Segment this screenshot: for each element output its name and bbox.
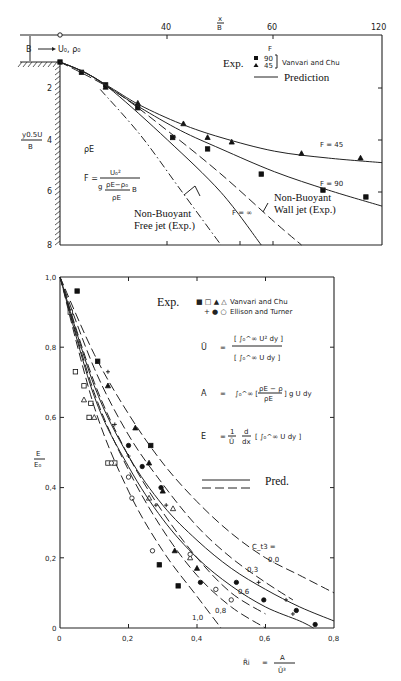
svg-text:=: =: [220, 344, 226, 352]
legend-markers-ellison: + ● ○: [204, 308, 227, 316]
svg-text:Ū: Ū: [201, 342, 207, 352]
svg-text:dx: dx: [242, 438, 251, 446]
bottom-y-label-num: E: [36, 450, 40, 458]
svg-text:A: A: [280, 654, 285, 662]
triangle-filled-marker: [194, 566, 199, 571]
svg-text:] g U dy: ] g U dy: [284, 390, 312, 398]
circle-filled-marker: [234, 580, 238, 584]
bottom-x-tick-0: 0: [57, 635, 61, 643]
curve-pred-ct3-0-8: [60, 277, 266, 628]
square-open-marker: [87, 415, 91, 419]
circle-filled-marker: [262, 598, 266, 602]
triangle-open-marker: [92, 415, 97, 420]
svg-text:E: E: [201, 432, 206, 441]
equation-A: A = ∫₀^∞ [ ρE − ρ ρE ] g U dy: [201, 385, 312, 403]
legend-source-vanvari: Vanvari and Chu: [230, 298, 288, 306]
circle-filled-marker: [294, 608, 298, 612]
bottom-legend-exp: Exp.: [157, 295, 179, 309]
circle-open-marker: [130, 496, 134, 500]
square-filled-marker: [157, 563, 161, 567]
bottom-y-label-den: E₀: [34, 461, 41, 469]
circle-open-marker: [214, 587, 218, 591]
square-open-marker: [73, 370, 77, 374]
bottom-y-tick-0: 0: [52, 625, 56, 633]
bottom-x-tick-0.4: 0,4: [191, 635, 203, 643]
circle-filled-marker: [140, 464, 144, 468]
svg-text:R̄i: R̄i: [243, 658, 250, 667]
equation-E: E = 1 Ū d dx [ ∫₀^∞ U dy ]: [201, 428, 301, 446]
svg-text:∫₀^∞ [: ∫₀^∞ [: [235, 390, 258, 398]
svg-text:d: d: [244, 428, 248, 436]
equation-U: Ū = [ ∫₀^∞ U² dy ] [ ∫₀^∞ U dy ]: [201, 335, 283, 362]
ct3-label-0.6: 0,6: [238, 588, 250, 596]
bottom-y-tick-0.2: 0,2: [45, 555, 56, 563]
svg-text:ρE − ρ: ρE − ρ: [259, 385, 283, 393]
ct3-label-0.8: 0,8: [215, 607, 226, 615]
circle-open-marker: [229, 598, 233, 602]
bottom-y-tick-0.4: 0,4: [45, 484, 57, 492]
svg-text:[ ∫₀^∞ U dy ]: [ ∫₀^∞ U dy ]: [234, 354, 280, 362]
circle-open-marker: [109, 461, 113, 465]
bottom-x-tick-0.6: 0,6: [259, 635, 271, 643]
svg-text:A: A: [201, 389, 207, 398]
bottom-chart-entrainment: 0 0,2 0,4 0,6 0,8 0 0,2 0,4 0,6 0,8 1,0 …: [0, 0, 401, 681]
bottom-x-label: R̄i = A Ū³: [243, 654, 295, 675]
svg-text:[ ∫₀^∞ U² dy ]: [ ∫₀^∞ U² dy ]: [234, 335, 283, 343]
triangle-open-marker: [81, 397, 86, 402]
svg-text:=: =: [220, 433, 226, 441]
ct3-label-0.3: 0,3: [247, 566, 258, 574]
circle-filled-marker: [126, 443, 130, 447]
triangle-open-marker: [170, 506, 175, 511]
bottom-x-tick-0.2: 0,2: [122, 635, 133, 643]
bottom-y-tick-1.0: 1,0: [45, 274, 56, 282]
bottom-y-tick-0.8: 0,8: [45, 344, 56, 352]
square-open-marker: [82, 384, 86, 388]
circle-filled-marker: [159, 485, 163, 489]
svg-text:1: 1: [230, 428, 234, 436]
ct3-title: C_t3 =: [252, 543, 276, 551]
circle-open-marker: [150, 549, 154, 553]
bottom-legend: Exp. ■ □ ▲ △ Vanvari and Chu + ● ○ Ellis…: [157, 295, 292, 316]
bottom-x-tick-0.8: 0,8: [328, 635, 339, 643]
curve-pred-ct3-0-6: [60, 277, 266, 614]
legend-source-ellison: Ellison and Turner: [230, 308, 292, 316]
circle-open-marker: [126, 475, 130, 479]
curve-pred-solid-lower: [60, 277, 313, 628]
triangle-filled-marker: [172, 548, 177, 553]
svg-text:Ū: Ū: [229, 437, 234, 446]
square-open-marker: [89, 401, 93, 405]
svg-text:=: =: [220, 390, 226, 398]
square-filled-marker: [75, 289, 79, 293]
svg-text:[ ∫₀^∞ U dy ]: [ ∫₀^∞ U dy ]: [255, 433, 301, 441]
bottom-plot-area: [60, 277, 334, 628]
bottom-y-tick-0.6: 0,6: [45, 414, 57, 422]
svg-text:=: =: [262, 659, 268, 667]
svg-text:ρE: ρE: [264, 395, 273, 403]
circle-filled-marker: [313, 622, 317, 626]
figure: B U₀, ρ₀ 40 60 120 x B 2 4 6 8 y0.5U B ρ…: [0, 0, 401, 681]
svg-text:Ū³: Ū³: [278, 666, 286, 675]
pred-legend: Pred.: [202, 475, 289, 488]
ct3-label-1.0: 1,0: [192, 614, 203, 622]
ct3-label-0.0: 0,0: [268, 556, 279, 564]
legend-markers-vanvari: ■ □ ▲ △: [196, 298, 227, 306]
triangle-filled-marker: [146, 460, 151, 465]
pred-label: Pred.: [265, 475, 289, 487]
square-filled-marker: [176, 584, 180, 588]
